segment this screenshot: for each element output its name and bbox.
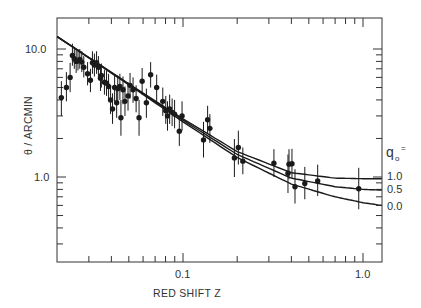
point-marker xyxy=(81,65,86,70)
x-tick-label-0.1: 0.1 xyxy=(175,268,190,280)
y-axis-title: θ / ARCMIN xyxy=(22,96,34,155)
x-tick-label-1.0: 1.0 xyxy=(355,268,370,280)
legend-label-q05: 0.5 xyxy=(387,183,402,195)
model-curve-q0-1-0 xyxy=(57,37,382,179)
point-marker xyxy=(177,128,182,133)
data-point xyxy=(285,154,290,193)
point-marker xyxy=(236,145,241,150)
point-marker xyxy=(160,99,165,104)
point-marker xyxy=(207,126,212,131)
point-marker xyxy=(99,73,104,78)
point-marker xyxy=(289,161,294,166)
data-point xyxy=(201,122,206,158)
data-point xyxy=(59,81,64,116)
point-marker xyxy=(285,171,290,176)
point-marker xyxy=(172,111,177,116)
point-marker xyxy=(88,78,93,83)
point-marker xyxy=(85,71,90,76)
data-point xyxy=(118,100,123,136)
axis-ticks xyxy=(57,18,382,262)
cosmology-plot: 10.0 1.0 0.1 1.0 RED SHIFT Z θ / ARCMIN … xyxy=(0,0,421,308)
legend: q o = 1.0 0.5 0.0 xyxy=(386,144,406,212)
point-marker xyxy=(130,87,135,92)
point-marker xyxy=(110,106,115,111)
point-marker xyxy=(240,158,245,163)
point-marker xyxy=(133,96,138,101)
data-point xyxy=(154,75,159,102)
data-point xyxy=(144,89,149,118)
data-point xyxy=(172,100,177,128)
point-marker xyxy=(315,178,320,183)
data-point xyxy=(292,169,297,203)
data-point xyxy=(240,148,245,175)
data-point xyxy=(179,101,184,130)
x-axis-title: RED SHIFT Z xyxy=(153,287,221,299)
model-curve-q0-0-0 xyxy=(57,37,382,206)
point-marker xyxy=(271,161,276,166)
data-point xyxy=(356,168,361,209)
legend-label-q0: 0.0 xyxy=(387,200,402,212)
point-marker xyxy=(64,85,69,90)
point-marker xyxy=(127,83,132,88)
data-point xyxy=(232,139,237,177)
point-marker xyxy=(179,113,184,118)
point-marker xyxy=(292,184,297,189)
point-marker xyxy=(139,79,144,84)
legend-title-eq: = xyxy=(401,144,406,153)
point-marker xyxy=(136,115,141,120)
point-marker xyxy=(122,99,127,104)
data-point xyxy=(148,62,153,87)
model-curve-q0-0-5 xyxy=(57,37,382,191)
point-marker xyxy=(148,72,153,77)
plot-frame xyxy=(57,18,382,262)
legend-title-q: q xyxy=(386,144,394,160)
point-marker xyxy=(118,115,123,120)
legend-title-sub: o xyxy=(395,154,400,163)
data-point xyxy=(271,149,276,177)
point-marker xyxy=(232,155,237,160)
y-tick-label-1: 1.0 xyxy=(34,171,49,183)
legend-label-q1: 1.0 xyxy=(387,170,402,182)
point-marker xyxy=(59,95,64,100)
data-point xyxy=(136,100,141,136)
point-marker xyxy=(302,181,307,186)
point-marker xyxy=(201,137,206,142)
model-curves xyxy=(57,37,382,206)
y-tick-label-10: 10.0 xyxy=(25,43,46,55)
point-marker xyxy=(356,186,361,191)
point-marker xyxy=(154,85,159,90)
point-marker xyxy=(67,75,72,80)
point-marker xyxy=(114,100,119,105)
point-marker xyxy=(144,100,149,105)
data-point xyxy=(302,167,307,199)
